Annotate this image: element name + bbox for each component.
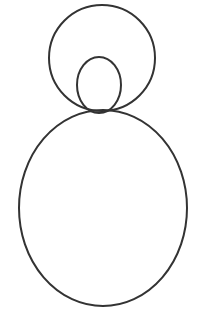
line-drawing-canvas [0, 0, 200, 323]
figure-svg [0, 0, 200, 323]
